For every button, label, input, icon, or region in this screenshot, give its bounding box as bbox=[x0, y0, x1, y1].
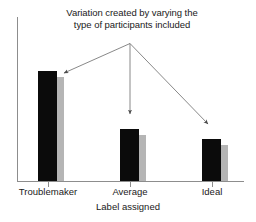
arrow-to-troublemaker bbox=[64, 44, 130, 74]
bar-ideal bbox=[202, 139, 221, 181]
y-axis-line bbox=[17, 17, 18, 182]
bar-group-troublemaker bbox=[38, 71, 64, 181]
bar-group-ideal bbox=[202, 139, 228, 181]
arrow-to-ideal bbox=[130, 44, 208, 125]
x-label-average: Average bbox=[112, 186, 147, 197]
plot-area: Troublemaker Average Ideal Label assigne… bbox=[0, 0, 256, 222]
bar-group-average bbox=[120, 129, 146, 181]
x-label-troublemaker: Troublemaker bbox=[19, 186, 77, 197]
chart-figure: Variation created by varying the type of… bbox=[0, 0, 256, 222]
bar-average bbox=[120, 129, 139, 181]
x-label-ideal: Ideal bbox=[202, 186, 223, 197]
x-axis-title: Label assigned bbox=[0, 201, 256, 212]
bar-troublemaker bbox=[38, 71, 57, 181]
